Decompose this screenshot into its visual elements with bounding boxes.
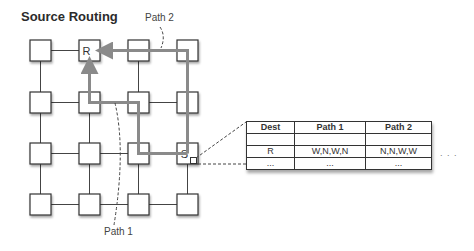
cell-path2: ...	[366, 158, 432, 170]
node-label: R	[83, 45, 91, 57]
path1-label: Path 1	[104, 226, 133, 237]
mesh-nodes: RS	[30, 40, 198, 215]
router-node	[30, 143, 51, 164]
zoom-leader-top	[196, 122, 246, 158]
cell-path1: ...	[295, 158, 366, 170]
router-node	[30, 194, 51, 215]
router-node	[177, 194, 198, 215]
cell-path2	[366, 134, 432, 146]
table-row: R W,N,W,N N,N,W,W	[247, 146, 432, 158]
path2-leader	[160, 27, 163, 48]
table-row	[247, 134, 432, 146]
mesh-links	[41, 51, 188, 205]
router-node	[128, 194, 149, 215]
cell-path2: N,N,W,W	[366, 146, 432, 158]
router-node-r: R	[79, 40, 100, 61]
table-header-row: Dest Path 1 Path 2	[247, 122, 432, 134]
cell-dest: ...	[247, 158, 295, 170]
cell-path1: W,N,W,N	[295, 146, 366, 158]
more-columns-indicator: . . .	[440, 148, 458, 158]
header-dest: Dest	[247, 122, 295, 134]
router-node	[30, 92, 51, 113]
table-row: ... ... ...	[247, 158, 432, 170]
cell-dest: R	[247, 146, 295, 158]
cell-dest	[247, 134, 295, 146]
diagram-title: Source Routing	[21, 9, 118, 24]
path1-leader	[114, 103, 120, 225]
router-node	[30, 40, 51, 61]
routing-table: Dest Path 1 Path 2 R W,N,W,N N,N,W,W ...…	[246, 121, 432, 170]
header-path2: Path 2	[366, 122, 432, 134]
router-node	[79, 194, 100, 215]
path2-label: Path 2	[145, 12, 174, 23]
header-path1: Path 1	[295, 122, 366, 134]
routing-table-icon	[191, 158, 197, 164]
cell-path1	[295, 134, 366, 146]
router-node	[79, 143, 100, 164]
